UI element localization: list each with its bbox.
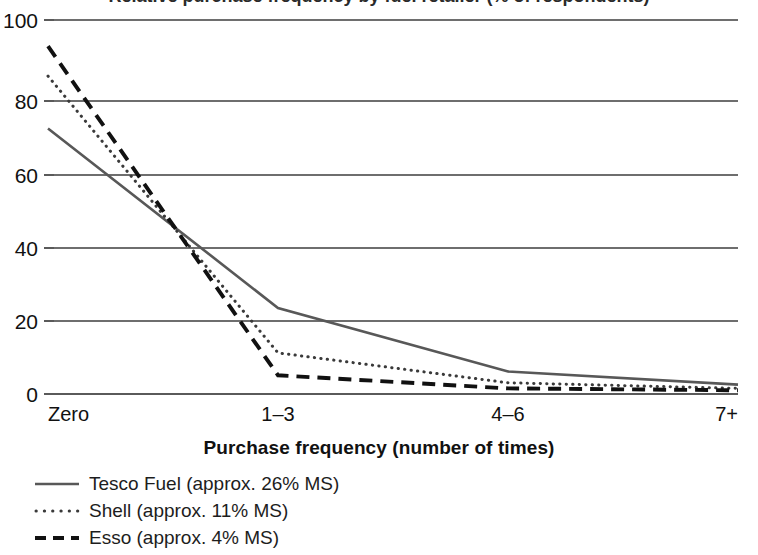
y-tick-label-40: 40: [15, 237, 38, 260]
legend-swatch-dotted-icon: [34, 504, 80, 518]
legend-item-esso[interactable]: Esso (approx. 4% MS): [34, 524, 454, 551]
series-line-shell: [48, 76, 738, 388]
x-axis-title: Purchase frequency (number of times): [0, 437, 758, 459]
y-tick-label-100: 100: [3, 9, 38, 32]
legend-label-tesco-fuel: Tesco Fuel (approx. 26% MS): [89, 473, 339, 495]
plot-area: 100 80 60 40 20 0 Zero 1–3 4–6 7+: [0, 0, 758, 470]
y-tick-label-0: 0: [26, 383, 38, 406]
y-tick-labels: 100 80 60 40 20 0: [3, 9, 38, 406]
y-tick-label-20: 20: [15, 310, 38, 333]
legend-swatch-dashed-icon: [34, 531, 80, 545]
legend-item-tesco-fuel[interactable]: Tesco Fuel (approx. 26% MS): [34, 470, 454, 497]
legend-label-shell: Shell (approx. 11% MS): [89, 500, 288, 522]
x-tick-label-4-6: 4–6: [491, 403, 524, 425]
x-tick-label-zero: Zero: [48, 403, 89, 425]
legend-item-shell[interactable]: Shell (approx. 11% MS): [34, 497, 454, 524]
series-line-tesco-fuel: [48, 128, 738, 384]
line-chart: Relative purchase frequency by fuel reta…: [0, 0, 758, 555]
legend-swatch-solid-icon: [34, 477, 80, 491]
legend: Tesco Fuel (approx. 26% MS) Shell (appro…: [34, 470, 454, 551]
x-tick-labels: Zero 1–3 4–6 7+: [48, 403, 738, 425]
legend-label-esso: Esso (approx. 4% MS): [89, 527, 279, 549]
x-tick-label-7plus: 7+: [715, 403, 738, 425]
series-group: [48, 46, 738, 390]
y-tick-label-80: 80: [15, 90, 38, 113]
gridlines: [48, 20, 738, 321]
y-tick-label-60: 60: [15, 164, 38, 187]
x-tick-label-1-3: 1–3: [261, 403, 294, 425]
